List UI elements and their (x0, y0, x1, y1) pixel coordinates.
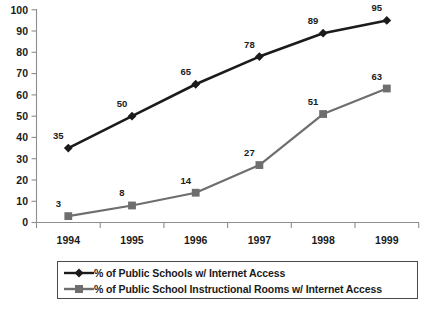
data-point-label: 3 (56, 198, 61, 209)
data-point-label: 14 (180, 175, 191, 186)
legend-label: % of Public Schools w/ Internet Access (94, 267, 285, 279)
data-point-label: 78 (244, 39, 255, 50)
series-line (68, 20, 387, 148)
data-label-layer: 3550657889953814275163 (53, 2, 383, 209)
y-tick-label: 60 (16, 89, 28, 101)
y-tick-label: 90 (16, 25, 28, 37)
data-point-label: 8 (119, 187, 124, 198)
data-point-marker[interactable] (319, 29, 328, 38)
x-axis-tick-labels: 1994 1995 1996 1997 1998 1999 (57, 234, 399, 246)
figure-caption (4, 301, 304, 309)
square-marker-icon (64, 282, 94, 296)
x-tick-label: 1998 (311, 234, 335, 246)
x-tick-label: 1999 (375, 234, 399, 246)
x-tick-label: 1997 (248, 234, 272, 246)
chart-legend: % of Public Schools w/ Internet Access %… (57, 261, 418, 299)
data-point-marker[interactable] (383, 85, 391, 93)
data-point-marker[interactable] (192, 189, 200, 197)
y-tick-label: 80 (16, 46, 28, 58)
series-layer (64, 16, 391, 220)
data-point-marker[interactable] (255, 52, 264, 61)
data-point-label: 27 (244, 147, 255, 158)
data-point-label: 50 (117, 98, 128, 109)
y-tick-label: 30 (16, 153, 28, 165)
x-axis-ticks (37, 223, 419, 229)
data-point-marker[interactable] (128, 112, 137, 121)
y-tick-label: 50 (16, 110, 28, 122)
data-point-label: 63 (372, 71, 383, 82)
data-point-marker[interactable] (256, 161, 264, 169)
x-tick-label: 1995 (120, 234, 144, 246)
diamond-marker-icon (64, 266, 94, 280)
data-point-marker[interactable] (319, 110, 327, 118)
data-point-marker[interactable] (64, 144, 73, 153)
data-point-marker[interactable] (382, 16, 391, 25)
line-chart: 100 90 80 70 60 50 40 30 20 10 0 1994 19… (0, 0, 427, 309)
legend-label: % of Public School Instructional Rooms w… (94, 283, 382, 295)
y-tick-label: 20 (16, 174, 28, 186)
x-tick-label: 1994 (57, 234, 81, 246)
y-tick-label: 70 (16, 67, 28, 79)
data-point-marker[interactable] (128, 202, 136, 210)
data-point-marker[interactable] (64, 212, 72, 220)
y-tick-label: 100 (10, 4, 28, 16)
legend-item-instructional-rooms[interactable]: % of Public School Instructional Rooms w… (64, 281, 417, 297)
data-point-label: 95 (372, 2, 383, 13)
y-tick-label: 10 (16, 195, 28, 207)
legend-item-public-schools[interactable]: % of Public Schools w/ Internet Access (64, 265, 417, 281)
y-axis-ticks (32, 10, 37, 223)
data-point-label: 51 (308, 96, 319, 107)
y-tick-label: 40 (16, 131, 28, 143)
y-tick-label: 0 (22, 216, 28, 228)
data-point-label: 35 (53, 130, 64, 141)
y-axis-tick-labels: 100 90 80 70 60 50 40 30 20 10 0 (10, 4, 28, 229)
data-point-label: 65 (180, 66, 191, 77)
data-point-label: 89 (308, 15, 319, 26)
x-tick-label: 1996 (184, 234, 208, 246)
data-point-marker[interactable] (191, 80, 200, 89)
